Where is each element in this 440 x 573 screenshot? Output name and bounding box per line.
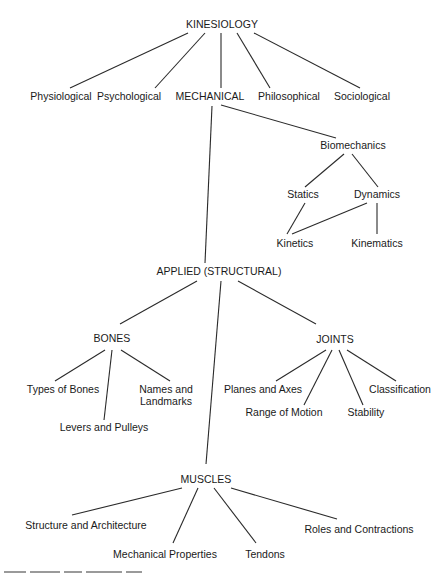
edge-dynamics-to-kinetics — [292, 203, 367, 234]
edge-joints-to-range-of-motion — [304, 350, 332, 405]
node-statics: Statics — [287, 188, 319, 200]
edge-applied-to-bones — [120, 281, 197, 324]
node-names-and-landmarks-line1: Names and — [139, 383, 193, 395]
edge-applied-to-joints — [238, 281, 316, 324]
edge-bones-to-names-landmarks — [121, 350, 170, 381]
node-classification: Classification — [369, 383, 431, 395]
node-sociological: Sociological — [334, 90, 390, 102]
edge-kinesiology-to-sociological — [254, 33, 360, 88]
diagram-edges — [55, 33, 396, 543]
node-stability: Stability — [348, 406, 386, 418]
edge-kinesiology-to-physiological — [70, 33, 188, 88]
node-dynamics: Dynamics — [354, 188, 400, 200]
edge-muscles-to-mechanical-properties — [173, 488, 198, 543]
edge-bones-to-types-of-bones — [55, 350, 105, 381]
node-mechanical-properties: Mechanical Properties — [113, 548, 217, 560]
node-range-of-motion: Range of Motion — [245, 406, 322, 418]
node-types-of-bones: Types of Bones — [27, 383, 99, 395]
node-bones: BONES — [94, 332, 131, 344]
edge-muscles-to-tendons — [214, 488, 256, 543]
node-applied-structural: APPLIED (STRUCTURAL) — [157, 265, 282, 277]
node-muscles: MUSCLES — [181, 473, 232, 485]
node-tendons: Tendons — [245, 548, 285, 560]
node-kinematics: Kinematics — [351, 237, 402, 249]
node-physiological: Physiological — [30, 90, 91, 102]
node-roles-and-contractions: Roles and Contractions — [304, 523, 413, 535]
kinesiology-diagram: KINESIOLOGY Physiological Psychological … — [0, 0, 440, 573]
node-joints: JOINTS — [316, 333, 353, 345]
edge-muscles-to-structure-architecture — [72, 488, 182, 515]
node-psychological: Psychological — [97, 90, 161, 102]
node-levers-and-pulleys: Levers and Pulleys — [60, 421, 149, 433]
edge-biomechanics-to-statics — [305, 154, 344, 187]
node-philosophical: Philosophical — [258, 90, 320, 102]
node-kinetics: Kinetics — [277, 237, 314, 249]
node-names-and-landmarks-line2: Landmarks — [140, 395, 192, 407]
node-planes-and-axes: Planes and Axes — [224, 383, 302, 395]
edge-biomechanics-to-dynamics — [352, 154, 378, 187]
edge-bones-to-levers-pulleys — [104, 350, 112, 420]
edge-kinesiology-to-philosophical — [237, 33, 270, 88]
edge-mechanical-to-applied — [205, 106, 212, 263]
edge-mechanical-to-biomechanics — [221, 105, 336, 138]
edge-muscles-to-roles-contractions — [231, 488, 337, 519]
node-mechanical: MECHANICAL — [176, 90, 245, 102]
node-structure-and-architecture: Structure and Architecture — [25, 519, 147, 531]
edge-joints-to-classification — [347, 350, 396, 381]
node-biomechanics: Biomechanics — [320, 139, 385, 151]
edge-kinesiology-to-psychological — [155, 33, 205, 88]
node-kinesiology: KINESIOLOGY — [186, 18, 258, 30]
edge-applied-to-muscles — [206, 281, 221, 464]
diagram-nodes: KINESIOLOGY Physiological Psychological … — [25, 18, 431, 560]
